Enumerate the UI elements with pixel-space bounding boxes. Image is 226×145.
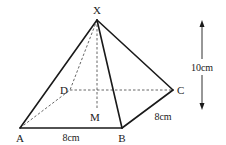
edge-bc: [122, 90, 173, 128]
label-b: B: [118, 132, 125, 144]
arrow-down-icon: [200, 103, 205, 110]
label-a: A: [16, 132, 24, 144]
dimension-height: 10cm: [191, 62, 213, 73]
edge-xc: [97, 20, 173, 90]
label-c: C: [177, 84, 184, 96]
dimension-ab: 8cm: [62, 132, 79, 143]
label-d: D: [60, 84, 68, 96]
pyramid-diagram: X A B C D M 8cm 8cm 10cm: [0, 0, 226, 145]
dimension-bc: 8cm: [154, 111, 171, 122]
label-m: M: [90, 111, 100, 123]
arrow-up-icon: [200, 20, 205, 27]
label-x: X: [93, 4, 101, 16]
edge-xb: [97, 20, 122, 128]
edge-xd: [70, 20, 97, 90]
edge-xa: [20, 20, 97, 128]
